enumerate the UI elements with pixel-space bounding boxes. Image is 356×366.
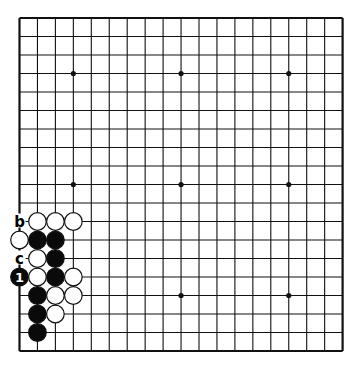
white-stone: [29, 213, 47, 231]
black-stone: [29, 287, 47, 305]
star-point: [71, 182, 76, 187]
white-stone: [65, 213, 83, 231]
white-stone: [29, 250, 47, 268]
black-stone: [47, 250, 65, 268]
white-stone: [47, 305, 65, 323]
star-point: [286, 182, 291, 187]
go-board: 1 bc: [0, 0, 356, 366]
black-stone: [47, 231, 65, 249]
white-stone: [65, 268, 83, 286]
star-point: [286, 293, 291, 298]
black-stone: [29, 324, 47, 342]
star-point: [286, 71, 291, 76]
white-stone: [47, 213, 65, 231]
point-letter-c: c: [15, 250, 24, 268]
black-stone: [29, 305, 47, 323]
star-point: [178, 71, 183, 76]
black-stone: [29, 231, 47, 249]
black-stone: 1: [11, 268, 29, 286]
move-number: 1: [15, 270, 24, 285]
star-point: [178, 293, 183, 298]
star-point: [178, 182, 183, 187]
black-stone: [47, 268, 65, 286]
white-stone: [47, 287, 65, 305]
point-letter-b: b: [14, 213, 25, 231]
white-stone: [65, 287, 83, 305]
white-stone: [11, 231, 29, 249]
stones: 1: [11, 213, 82, 342]
star-point: [71, 71, 76, 76]
white-stone: [29, 268, 47, 286]
